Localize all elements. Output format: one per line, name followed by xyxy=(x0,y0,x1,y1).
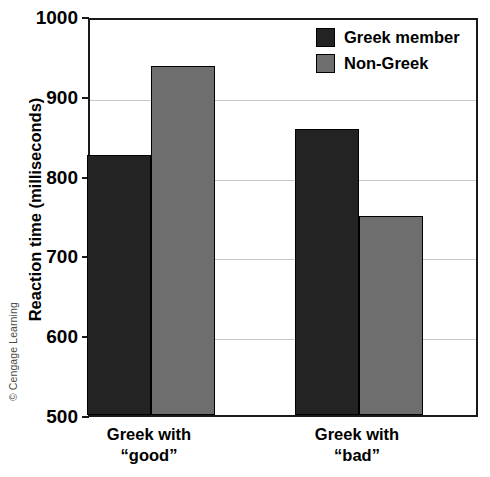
legend-item: Non-Greek xyxy=(316,54,460,73)
copyright-credit: © Cengage Learning xyxy=(0,0,20,477)
x-axis-category-line1: Greek with xyxy=(262,424,452,445)
bar xyxy=(87,155,151,415)
x-axis-category-label: Greek with“bad” xyxy=(262,424,452,466)
bar xyxy=(151,66,215,415)
y-axis-tick-label: 1000 xyxy=(0,8,78,27)
legend-item: Greek member xyxy=(316,28,460,47)
y-axis-tick-label: 700 xyxy=(0,247,78,266)
x-axis-category-line1: Greek with xyxy=(54,424,244,445)
x-axis-category-line2: “bad” xyxy=(262,445,452,466)
y-axis-tick-label: 600 xyxy=(0,327,78,346)
bar xyxy=(359,216,423,415)
legend-swatch-icon xyxy=(316,54,335,73)
legend-label: Non-Greek xyxy=(344,55,428,72)
x-axis-category-line2: “good” xyxy=(54,445,244,466)
legend-swatch-icon xyxy=(316,28,335,47)
y-axis-tick-label: 900 xyxy=(0,88,78,107)
y-axis-tick-label: 800 xyxy=(0,168,78,187)
legend: Greek memberNon-Greek xyxy=(316,28,460,73)
bar xyxy=(295,129,359,415)
bar-series-layer xyxy=(90,20,476,415)
legend-label: Greek member xyxy=(344,29,460,46)
plot-area: Greek memberNon-Greek xyxy=(88,18,478,417)
x-axis-category-label: Greek with“good” xyxy=(54,424,244,466)
